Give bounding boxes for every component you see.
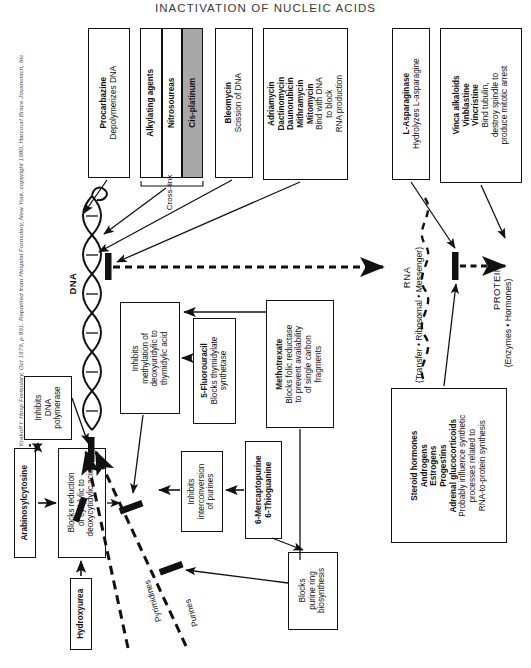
purine-pathway	[96, 452, 186, 646]
box-methotrexate: Methotrexate Blocks folic reductase to p…	[266, 300, 334, 428]
box-methotrexate-text: Methotrexate Blocks folic reductase to p…	[276, 324, 324, 403]
purines-label: Purines	[182, 598, 199, 628]
box-nitrosoureas: Nitrosoureas	[162, 28, 182, 178]
box-inhibits-dna-polymerase-text: Inhibits DNA polymerase	[33, 387, 62, 429]
arrow-anthracyclines-to-dna	[117, 182, 300, 262]
arrow-steroids-to-translation	[444, 284, 456, 386]
dna-helix-icon	[83, 188, 107, 430]
box-blocks-reduction-text: Blocks reduction of cytidylic to deoxycy…	[67, 469, 96, 537]
diagram-canvas: INACTIVATION OF NUCLEIC ACIDS From Goldb…	[0, 0, 531, 668]
box-alkylating-agents: Alkylating agents	[140, 28, 162, 178]
box-inhibits-dna-polymerase: Inhibits DNA polymerase	[24, 376, 72, 440]
arrow-alkylating-to-dna	[104, 188, 166, 234]
arrow-asparaginase-to-translation	[411, 182, 455, 248]
box-steroid-hormones-text: Steroid hormones Androgens Estrogens Pro…	[410, 415, 487, 517]
arrow-procarbazine-to-dna	[84, 180, 107, 213]
box-vinca-alkaloids: Vinca alkaloids Vinblastine Vincristine …	[440, 28, 522, 183]
pyrimidines-label: Pyrimidines	[142, 579, 164, 623]
arrow-vinca-to-mitosis	[481, 185, 505, 238]
box-anthracyclines: Adriamycin Dactinomycin Daunorubicin Mit…	[263, 28, 348, 180]
arrow-purine-ring-to-path	[186, 570, 288, 583]
block-bar-translation	[452, 252, 459, 280]
protein-label: PROTEIN	[491, 265, 502, 310]
box-arabinosylcytosine: Arabinosylcytosine	[14, 448, 36, 558]
protein-sublabel: (Enzymes • Hormones)	[503, 279, 513, 368]
block-bar-pyrimidine-path-2	[119, 500, 144, 514]
box-thiopurines-text: 6-Mercaptopurine 6-Thioguanine	[254, 456, 273, 525]
box-arabinosylcytosine-text: Arabinosylcytosine	[20, 465, 30, 541]
rna-sublabel: (Transfer • Ribosomal • Messenger)	[414, 247, 424, 383]
rna-label: RNA	[401, 267, 412, 288]
box-5-fluorouracil-text: 5-Fluorouracil Blocks thymidylate synthe…	[200, 337, 229, 405]
arrow-polymerase-to-dna	[72, 398, 88, 443]
box-hydroxyurea-text: Hydroxyurea	[76, 589, 86, 639]
box-inhibits-methylation: Inhibits methylation of deoxyuridylic to…	[120, 302, 180, 414]
block-bar-dna-transcription	[105, 253, 112, 280]
arrow-methylation-to-pyrimidine	[133, 415, 143, 493]
box-steroid-hormones: Steroid hormones Androgens Estrogens Pro…	[391, 388, 507, 543]
box-procarbazine-text: Procarbazine Depolymerizes DNA	[99, 66, 118, 140]
box-vinca-alkaloids-text: Vinca alkaloids Vinblastine Vincristine …	[452, 66, 510, 145]
box-nitrosoureas-text: Nitrosoureas	[167, 78, 177, 129]
page-title: INACTIVATION OF NUCLEIC ACIDS	[0, 2, 531, 14]
box-bleomycin-text: Bleomycin Scission of DNA	[224, 73, 243, 132]
arrow-thiopurines-to-purine-ring	[272, 538, 303, 550]
box-cis-platinum-text: Cis-platinum	[188, 78, 198, 128]
box-inhibits-methylation-text: Inhibits methylation of deoxyuridylic to…	[131, 330, 170, 386]
box-alkylating-agents-text: Alkylating agents	[146, 69, 156, 137]
box-anthracyclines-text: Adriamycin Dactinomycin Daunorubicin Mit…	[267, 75, 344, 132]
box-hydroxyurea: Hydroxyurea	[70, 578, 92, 650]
box-inhibits-interconversion-text: Inhibits interconversion of purines	[187, 464, 216, 520]
block-bar-purine-path	[159, 561, 184, 575]
box-blocks-reduction: Blocks reduction of cytidylic to deoxycy…	[58, 448, 106, 558]
box-cis-platinum: Cis-platinum	[182, 28, 203, 178]
box-bleomycin: Bleomycin Scission of DNA	[215, 28, 253, 178]
box-procarbazine: Procarbazine Depolymerizes DNA	[88, 28, 130, 178]
box-5-fluorouracil: 5-Fluorouracil Blocks thymidylate synthe…	[193, 318, 236, 424]
box-thiopurines: 6-Mercaptopurine 6-Thioguanine	[245, 441, 282, 539]
crosslink-label: Cross-link	[165, 175, 174, 211]
box-blocks-purine-ring-text: Blocks purine ring biosynthesis	[298, 568, 327, 613]
box-l-asparaginase-text: L-Asparaginase Hydrolyzes L-asparagine	[401, 59, 420, 150]
dna-label: DNA	[67, 273, 78, 295]
box-blocks-purine-ring: Blocks purine ring biosynthesis	[288, 552, 338, 630]
box-inhibits-interconversion: Inhibits interconversion of purines	[181, 451, 223, 532]
arrow-arac-to-polymerase	[34, 444, 42, 447]
box-l-asparaginase: L-Asparaginase Hydrolyzes L-asparagine	[392, 28, 430, 180]
